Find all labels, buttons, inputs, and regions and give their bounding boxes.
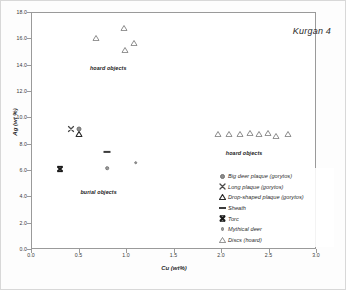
legend-label: Drop-shaped plaque (gorytos) [228,194,304,200]
y-tick-mark [27,91,31,92]
marker-triangle-dark-icon [219,194,226,200]
annotation-label: burial objects [80,189,116,195]
legend-label: Mythical deer [228,226,262,232]
chart-figure: Kurgan 4 Ag (wt %) Cu (wt%) 0.02.04.06.0… [0,0,346,290]
data-point [92,35,99,41]
marker-bowtie-icon [56,165,63,172]
marker-bowtie-icon [219,215,226,222]
marker-circle-small-icon [105,166,109,170]
marker-triangle-icon [121,25,128,31]
x-tick-mark [126,249,127,253]
x-axis-label: Cu (wt%) [1,265,346,271]
marker-circle-small-icon [221,227,225,231]
marker-triangle-icon [256,131,263,137]
y-tick-label: 12.0 [0,91,27,97]
marker-triangle-icon [122,47,129,53]
legend-label: Big deer plaque (gorytos) [228,173,292,179]
data-point [56,165,63,172]
legend-symbol [217,214,228,223]
y-tick-mark [27,38,31,39]
data-point [256,131,263,137]
y-tick-label: 8.0 [0,144,27,150]
marker-x-icon [219,183,226,190]
legend-item[interactable]: Discs (hoard) [217,234,332,245]
legend-item[interactable]: Sheath [217,203,332,214]
data-point [122,47,129,53]
data-point [75,131,82,137]
marker-triangle-icon [264,130,271,136]
marker-dash-icon [219,207,226,209]
legend-item[interactable]: Torc [217,213,332,224]
marker-triangle-icon [219,237,226,243]
legend-symbol [217,203,228,212]
marker-triangle-icon [284,131,291,137]
y-tick-mark [27,12,31,13]
y-tick-label: 2.0 [0,223,27,229]
legend-label: Discs (hoard) [228,237,262,243]
y-tick-mark [27,65,31,66]
data-point [246,130,253,136]
legend-item[interactable]: Long plaque (gorytos) [217,181,332,192]
legend-label: Torc [228,216,239,222]
marker-triangle-icon [225,131,232,137]
legend-symbol [217,172,228,181]
marker-triangle-icon [215,131,222,137]
x-tick-mark [174,249,175,253]
marker-triangle-icon [130,40,137,46]
y-tick-label: 18.0 [0,12,27,18]
legend-item[interactable]: Mythical deer [217,224,332,235]
data-point [130,40,137,46]
marker-x-icon [67,125,74,132]
marker-triangle-icon [273,133,280,139]
legend-item[interactable]: Drop-shaped plaque (gorytos) [217,192,332,203]
annotation-label: hoard objects [226,150,263,156]
data-point [264,130,271,136]
y-tick-mark [27,144,31,145]
data-point [237,131,244,137]
legend-item[interactable]: Big deer plaque (gorytos) [217,171,332,182]
marker-triangle-icon [92,35,99,41]
y-tick-label: 16.0 [0,38,27,44]
marker-triangle-icon [246,130,253,136]
chart-legend: Big deer plaque (gorytos)Long plaque (go… [214,168,334,247]
data-point [134,161,138,165]
legend-symbol [217,182,228,191]
y-tick-mark [27,223,31,224]
data-point [215,131,222,137]
x-tick-mark [269,249,270,253]
data-point [225,131,232,137]
data-point [67,125,74,132]
y-tick-label: 10.0 [0,117,27,123]
data-point [104,151,111,153]
data-point [121,25,128,31]
annotation-label: hoard objects [90,65,127,71]
legend-label: Sheath [228,205,246,211]
marker-triangle-dark-icon [75,131,82,137]
data-point [105,166,109,170]
y-tick-label: 4.0 [0,196,27,202]
y-tick-label: 14.0 [0,65,27,71]
x-tick-mark [79,249,80,253]
marker-circle-icon [220,174,225,179]
x-tick-mark [316,249,317,253]
x-tick-mark [31,249,32,253]
marker-dash-icon [104,151,111,153]
legend-label: Long plaque (gorytos) [228,184,283,190]
legend-symbol [217,225,228,234]
legend-symbol [217,193,228,202]
data-point [273,133,280,139]
data-point [284,131,291,137]
x-tick-mark [221,249,222,253]
marker-triangle-icon [237,131,244,137]
y-tick-mark [27,117,31,118]
y-tick-mark [27,170,31,171]
marker-circle-small-icon [134,161,138,165]
legend-symbol [217,235,228,244]
y-tick-label: 6.0 [0,170,27,176]
y-tick-mark [27,196,31,197]
chart-title: Kurgan 4 [293,26,331,36]
